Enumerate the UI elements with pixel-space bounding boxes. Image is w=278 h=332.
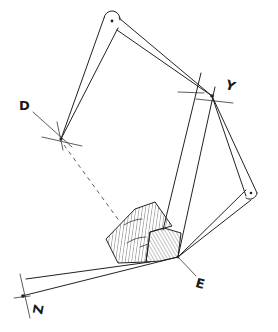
label-e: E [194,275,206,292]
arm-d-to-top-pivot [61,18,118,139]
top-pivot-dot [111,20,114,23]
y-construction-marks [178,92,233,103]
linkage-diagram: D Y E Z [0,0,278,332]
top-pivot [104,11,120,22]
d-point [59,137,62,140]
right-pivot [246,192,257,200]
label-d: D [19,98,30,113]
z-point [21,294,25,298]
d-construction-marks [33,112,120,222]
arm-y-to-right-pivot [212,96,257,196]
crosshatched-joint [146,228,181,262]
label-y: Y [223,77,238,95]
diagram-canvas: D Y E Z [0,0,278,332]
label-z: Z [30,303,46,315]
arm-right-pivot-to-e [178,190,251,257]
e-leader [178,257,196,276]
bottom-bar [22,257,178,296]
arm-top-pivot-to-y [117,18,212,96]
right-pivot-dot [250,192,253,195]
